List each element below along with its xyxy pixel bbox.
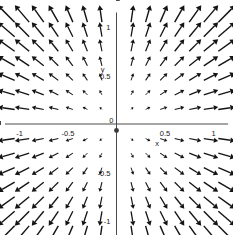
field-arrow [0,168,15,176]
field-arrow [15,226,29,235]
field-arrow [82,56,87,66]
field-arrow [204,197,218,209]
field-arrow [160,168,167,175]
field-arrow [189,73,201,80]
x-axis-name: x [155,139,159,148]
field-arrow [204,89,218,95]
field-arrow [65,226,73,235]
field-arrow [189,182,201,192]
field-arrow [218,39,233,51]
field-arrow [98,22,103,36]
field-arrow [32,182,44,192]
y-axis-tick-label: -1 [104,217,111,226]
field-arrow [65,5,73,22]
field-arrow [146,22,152,36]
field-arrow [204,153,218,159]
field-arrow [130,22,135,36]
field-arrow [146,90,151,95]
field-arrow [0,137,15,143]
field-arrow [49,138,59,142]
field-arrow [100,107,103,110]
field-arrow [218,226,233,235]
field-arrow [83,138,88,141]
field-arrow [0,56,15,66]
x-axis-tick-label: -0.5 [62,129,75,138]
field-arrow [130,39,135,51]
field-arrow [130,226,136,235]
field-arrow [189,226,201,235]
field-arrow [15,89,29,95]
field-arrow [189,211,201,225]
field-arrow [32,226,44,235]
field-arrow [130,197,135,209]
field-arrow [131,90,134,95]
field-arrow [160,73,167,80]
field-arrow [204,168,218,176]
field-arrow [146,56,151,66]
field-arrow [160,39,167,51]
field-arrow [81,211,87,225]
field-arrow [0,197,15,209]
field-arrow [81,5,87,22]
field-arrow [49,73,59,80]
field-arrow [131,107,134,110]
field-arrow [160,211,168,225]
field-arrow [81,22,87,36]
field-arrow [131,182,135,192]
field-arrow [0,22,15,36]
field-arrow [15,56,29,66]
field-arrow [100,138,103,141]
field-arrow [98,197,103,209]
y-axis-tick-label: 1 [106,23,110,32]
field-arrow [32,73,44,80]
field-arrow [32,211,44,225]
field-arrow [66,138,73,142]
field-arrow [32,105,44,110]
field-arrow [160,153,167,158]
field-arrow [15,197,29,209]
field-arrow [83,90,88,95]
field-arrow [66,73,73,80]
field-arrow [49,197,59,209]
field-arrow [146,73,151,80]
field-arrow [15,105,29,110]
field-arrow [175,90,185,95]
field-arrow [15,73,29,81]
field-arrow [15,182,29,192]
field-arrow [82,182,87,192]
field-arrow [131,73,135,80]
vector-field-canvas: -1-0.500.51-1-0.50.51xy [0,0,233,235]
field-arrow [49,90,59,95]
field-arrow [15,39,29,51]
field-arrow [218,137,233,143]
field-arrow [146,226,152,235]
field-arrow [32,197,44,209]
field-arrow [97,226,103,235]
field-arrow [218,153,233,159]
field-arrow [175,39,185,51]
field-arrow [218,168,233,176]
field-arrow [81,226,87,235]
field-arrow [204,105,218,110]
field-arrow [66,168,73,175]
field-arrow [83,168,88,175]
field-arrow [160,182,167,192]
field-arrow [175,197,185,209]
field-arrow [130,211,135,225]
field-arrow [175,153,185,158]
field-arrow [204,226,218,235]
field-arrow [160,5,168,22]
field-arrow [66,182,73,192]
field-arrow [83,73,88,80]
field-arrow [48,226,58,235]
field-arrow [32,5,44,22]
field-arrow [189,89,201,95]
field-arrow [146,107,151,110]
x-axis-tick-label: 1 [211,129,215,138]
field-arrow [15,22,29,36]
field-arrow [146,182,151,192]
field-arrow [99,153,102,158]
field-arrow [0,5,15,22]
y-axis-tick-label: -0.5 [98,169,111,178]
field-arrow [218,56,233,66]
